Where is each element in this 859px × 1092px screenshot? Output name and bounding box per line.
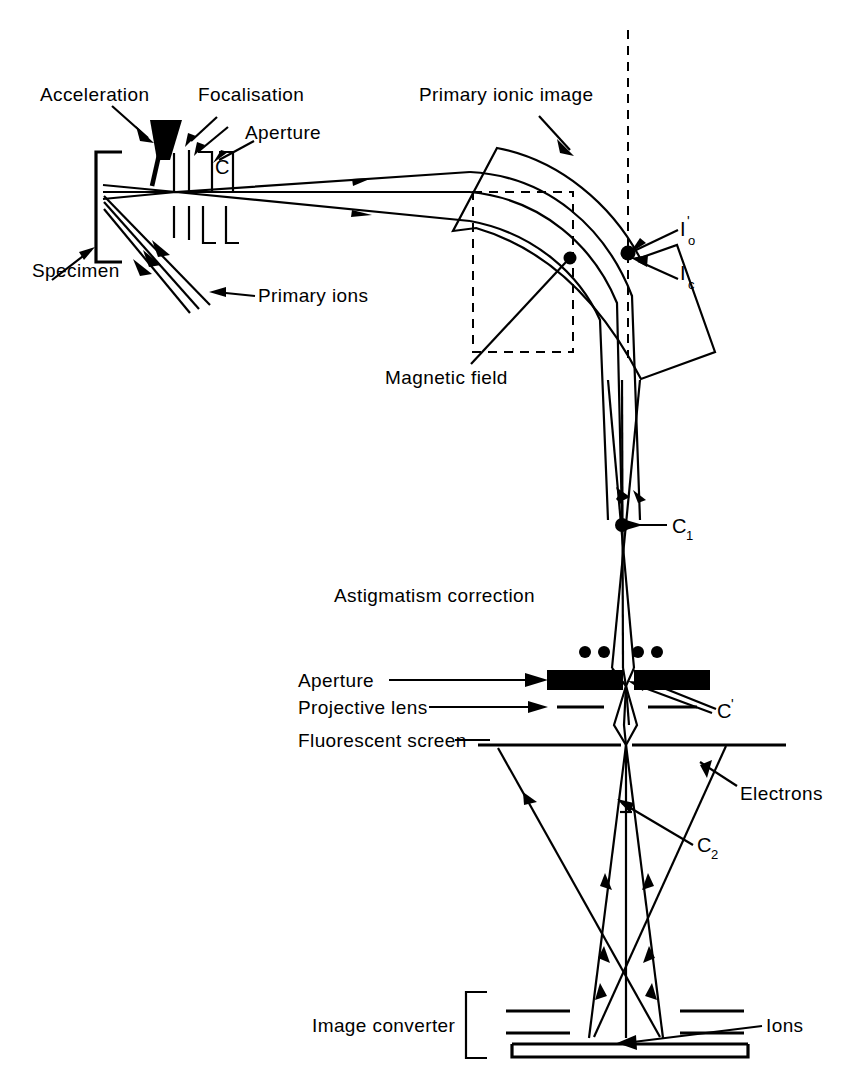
leader-projective-lens: [429, 701, 548, 713]
c-prime-base: C: [717, 700, 731, 722]
c1-subscript: 1: [686, 528, 693, 543]
leader-focalisation: [185, 117, 228, 156]
leader-acceleration: [112, 106, 154, 143]
leader-ic: [631, 255, 678, 279]
label-magnetic-field: Magnetic field: [385, 367, 508, 388]
label-primary-ionic-image: Primary ionic image: [419, 84, 593, 105]
leader-io: [630, 230, 678, 253]
leader-primary-ionic-image: [539, 116, 574, 156]
leader-primary-ions: [209, 287, 255, 297]
i-o-subscript: o: [688, 233, 695, 248]
label-projective-lens: Projective lens: [298, 697, 428, 718]
diagram-canvas: Acceleration Focalisation Aperture C Spe…: [0, 0, 859, 1092]
c2-subscript: 2: [711, 847, 718, 862]
label-primary-ions: Primary ions: [258, 285, 368, 306]
c-prime-mark: ': [731, 696, 734, 712]
label-aperture-mid: Aperture: [298, 670, 374, 691]
label-i-c: I c: [680, 262, 695, 292]
electron-beams: [498, 746, 726, 1037]
label-aperture-top: Aperture: [245, 122, 321, 143]
label-c1: C 1: [672, 515, 693, 543]
leader-ions: [617, 1026, 762, 1050]
leader-aperture-mid: [389, 673, 548, 687]
primary-ion-beams: [104, 196, 210, 313]
c1-marker: [615, 518, 667, 532]
i-o-base: I: [680, 218, 686, 240]
label-i-o-prime: I ' o: [680, 213, 695, 248]
image-converter-bracket: [466, 992, 487, 1058]
label-astigmatism-correction: Astigmatism correction: [334, 585, 535, 606]
magnet-sector-outline: [453, 148, 715, 379]
c2-base: C: [697, 834, 711, 856]
label-focalisation: Focalisation: [198, 84, 304, 105]
leader-magnetic-field: [471, 262, 566, 364]
label-c-top: C: [215, 156, 229, 178]
label-specimen: Specimen: [32, 260, 120, 281]
i-o-prime-mark: ': [687, 213, 690, 229]
acceleration-electrode: [150, 120, 182, 186]
i-c-subscript: c: [688, 277, 695, 292]
label-acceleration: Acceleration: [40, 84, 149, 105]
astigmatism-correction-dots: [579, 646, 663, 658]
label-c-prime: C ': [717, 696, 734, 722]
label-ions: Ions: [766, 1015, 804, 1036]
label-electrons: Electrons: [740, 783, 823, 804]
secondary-ion-beams-upper: [103, 172, 470, 221]
c1-base: C: [672, 515, 686, 537]
label-image-converter: Image converter: [312, 1015, 456, 1036]
magnet-field-arcs: [470, 172, 640, 520]
schematic-svg: Acceleration Focalisation Aperture C Spe…: [0, 0, 859, 1092]
i-c-base: I: [680, 262, 686, 284]
focalisation-electrodes-lower: [174, 206, 239, 243]
label-c2: C 2: [697, 834, 718, 862]
leader-c2: [617, 799, 693, 845]
focus-marker-dots: [564, 246, 636, 265]
label-fluorescent-screen: Fluorescent screen: [298, 730, 467, 751]
